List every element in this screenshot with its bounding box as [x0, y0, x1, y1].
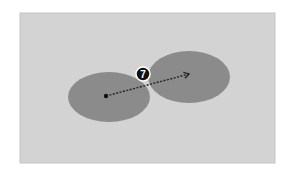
right-ellipse — [148, 51, 230, 103]
step-marker-label: 7 — [140, 69, 146, 80]
diagram-canvas: 7 — [0, 0, 289, 180]
start-dot — [104, 94, 108, 98]
step-marker: 7 — [136, 67, 150, 81]
diagram-panel — [20, 13, 275, 163]
